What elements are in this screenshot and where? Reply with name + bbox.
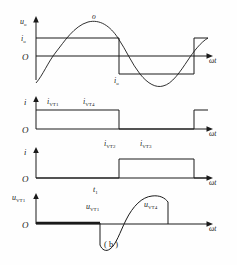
panel1-origin-label: O [22, 52, 29, 62]
panel-ivt1-ivt4: i O ωt iVT1 iVT4 [22, 96, 217, 138]
panel1-peak-label: o [92, 12, 96, 21]
panel3-ivt3-label: iVT3 [140, 139, 152, 149]
panel3-xlabel: ωt [209, 178, 217, 187]
panel1-current-annotation: io [114, 76, 119, 86]
panel2-ylabel: i [24, 97, 27, 107]
panel4-xlabel: ωt [209, 224, 217, 233]
panel2-ivt1-label: iVT1 [47, 97, 59, 107]
panel-ivt2-ivt3: i O ωt iVT2 iVT3 [22, 139, 217, 187]
figure-caption: ( b ) [104, 239, 118, 249]
panel1-ylabel-uo: uo [20, 17, 27, 27]
panel4-uvt4-label: uVT4 [144, 200, 158, 210]
panel1-ylabel-io: io [21, 34, 26, 44]
panel1-xlabel: ωt [209, 56, 217, 65]
panel2-ivt4-label: iVT4 [83, 97, 95, 107]
panel4-y-arrow [33, 193, 39, 199]
panel3-y-arrow [33, 147, 39, 153]
panel2-pulse-wave [36, 110, 208, 129]
panel1-sine-wave-io [36, 21, 208, 86]
waveform-figure: uo io O ωt o io i O ωt iVT1 iVT4 i O ωt … [0, 0, 237, 265]
panel3-ylabel: i [24, 147, 27, 157]
panel4-ylabel: uVT1 [12, 193, 26, 203]
panel3-ivt2-label: iVT2 [104, 139, 116, 149]
panel2-y-arrow [33, 96, 39, 102]
panel4-t1-label: t1 [93, 185, 98, 195]
panel4-origin-label: O [22, 220, 29, 230]
panel-output-voltage-current: uo io O ωt o io [20, 12, 217, 87]
panel1-y-arrow [33, 16, 39, 23]
panel3-pulse-wave [36, 159, 208, 178]
panel4-uvt1-label: uVT1 [86, 202, 100, 212]
panel3-origin-label: O [22, 174, 29, 184]
waveform-svg: uo io O ωt o io i O ωt iVT1 iVT4 i O ωt … [0, 0, 237, 265]
panel2-origin-label: O [22, 125, 29, 135]
panel2-xlabel: ωt [209, 129, 217, 138]
